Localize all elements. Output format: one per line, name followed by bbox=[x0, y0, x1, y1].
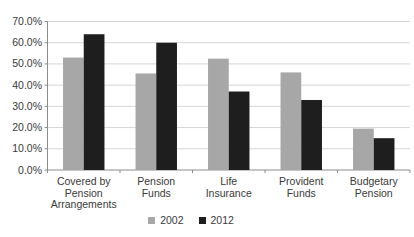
bar-2002-4 bbox=[281, 72, 302, 170]
bar-2002-3 bbox=[208, 59, 229, 170]
y-axis-label: 70.0% bbox=[12, 15, 42, 27]
y-axis-label: 10.0% bbox=[12, 142, 42, 154]
y-axis-label: 20.0% bbox=[12, 121, 42, 133]
legend-label-2002: 2002 bbox=[160, 214, 183, 226]
x-axis-category-label: PensionFunds bbox=[137, 175, 175, 199]
legend-swatch-2002 bbox=[148, 217, 155, 224]
bar-2002-5 bbox=[353, 129, 374, 170]
y-axis-label: 30.0% bbox=[12, 100, 42, 112]
chart-legend: 2002 2012 bbox=[0, 214, 382, 226]
bar-2012-1 bbox=[84, 34, 105, 170]
bar-2002-2 bbox=[136, 73, 157, 170]
bar-2012-4 bbox=[301, 100, 322, 170]
bar-chart: 0.0%10.0%20.0%30.0%40.0%50.0%60.0%70.0%C… bbox=[0, 0, 414, 237]
x-axis-category-label: LifeInsurance bbox=[206, 175, 252, 199]
bar-2012-2 bbox=[156, 43, 177, 170]
x-axis-category-label: ProvidentFunds bbox=[279, 175, 323, 199]
chart-svg: 0.0%10.0%20.0%30.0%40.0%50.0%60.0%70.0%C… bbox=[0, 0, 414, 237]
x-axis-category-label: BudgetaryPension bbox=[350, 175, 399, 199]
bar-2002-1 bbox=[63, 58, 84, 170]
y-axis-label: 40.0% bbox=[12, 79, 42, 91]
bar-2012-5 bbox=[374, 138, 395, 170]
legend-label-2012: 2012 bbox=[211, 214, 234, 226]
legend-item-2012: 2012 bbox=[199, 214, 234, 226]
bar-2012-3 bbox=[229, 92, 250, 170]
y-axis-label: 0.0% bbox=[18, 164, 42, 176]
y-axis-label: 50.0% bbox=[12, 57, 42, 69]
legend-swatch-2012 bbox=[199, 217, 206, 224]
legend-item-2002: 2002 bbox=[148, 214, 183, 226]
y-axis-label: 60.0% bbox=[12, 36, 42, 48]
x-axis-category-label: Covered byPensionArrangements bbox=[51, 175, 117, 210]
